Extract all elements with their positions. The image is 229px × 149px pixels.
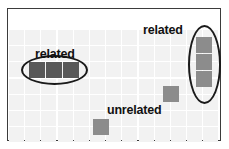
grid-cell: [90, 62, 105, 77]
label-related-left: related: [35, 47, 75, 61]
grid-cell: [74, 111, 89, 126]
grid-cell: [122, 127, 137, 142]
grid-cell: [74, 95, 89, 110]
grid-cell: [74, 30, 89, 45]
grid-cell: [25, 30, 40, 45]
grid-cell: [25, 127, 40, 142]
cluster-data-cell: [29, 62, 45, 78]
matrix-figure: relatedrelatedunrelated: [0, 0, 229, 149]
grid-cell: [106, 62, 121, 77]
grid-cell: [90, 30, 105, 45]
grid-cell: [58, 127, 73, 142]
cluster-data-cell: [196, 54, 212, 70]
grid-cell: [203, 127, 218, 142]
cluster-data-cell: [196, 37, 212, 53]
grid-cell: [171, 46, 186, 61]
cluster-data-cell: [196, 71, 212, 87]
grid-cell: [155, 127, 170, 142]
grid-cell: [9, 127, 24, 142]
grid-cell: [122, 46, 137, 61]
grid-cell: [58, 30, 73, 45]
grid-cell: [171, 111, 186, 126]
grid-cell: [171, 127, 186, 142]
grid-cell: [90, 79, 105, 94]
grid-cell: [25, 95, 40, 110]
grid-cell: [58, 111, 73, 126]
grid-cell: [41, 111, 56, 126]
grid-cell: [41, 95, 56, 110]
grid-cell: [139, 127, 154, 142]
grid-cell: [9, 111, 24, 126]
grid-cell: [106, 79, 121, 94]
grid-cell: [9, 30, 24, 45]
grid-cell: [106, 46, 121, 61]
grid-cell: [139, 79, 154, 94]
label-related-right: related: [143, 23, 183, 37]
grid-cell: [187, 127, 202, 142]
grid-cell: [171, 62, 186, 77]
grid-cell: [25, 111, 40, 126]
cluster-data-cell: [63, 62, 79, 78]
grid-cell: [90, 95, 105, 110]
grid-cell: [155, 46, 170, 61]
grid-cell: [155, 62, 170, 77]
cluster-data-cell: [46, 62, 62, 78]
unrelated-data-cell: [93, 119, 109, 135]
grid-cell: [9, 79, 24, 94]
grid-cell: [41, 127, 56, 142]
unrelated-data-cell: [163, 86, 179, 102]
grid-cell: [106, 30, 121, 45]
grid-cell: [122, 62, 137, 77]
grid-cell: [122, 30, 137, 45]
grid-cell: [90, 46, 105, 61]
grid-cell: [58, 95, 73, 110]
grid-cell: [9, 95, 24, 110]
grid-cell: [41, 30, 56, 45]
grid-cell: [139, 62, 154, 77]
grid-cell: [74, 127, 89, 142]
grid-cell: [122, 79, 137, 94]
grid-cell: [203, 111, 218, 126]
grid-cell: [187, 111, 202, 126]
grid-cell: [139, 46, 154, 61]
label-unrelated: unrelated: [107, 103, 161, 117]
grid-cell: [9, 46, 24, 61]
